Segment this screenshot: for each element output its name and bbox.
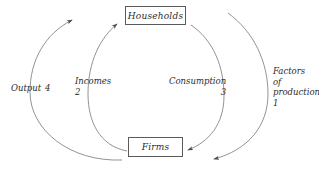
node-households-label: Households (128, 11, 183, 21)
flow-label-factors-line1: Factors (273, 66, 319, 77)
flow-number-incomes: 2 (75, 87, 111, 98)
flow-label-consumption: Consumption 3 (169, 76, 226, 97)
flow-number-factors: 1 (273, 98, 319, 109)
node-households: Households (125, 6, 186, 25)
node-firms-label: Firms (142, 142, 170, 152)
flow-number-consumption: 3 (169, 87, 226, 98)
flow-label-incomes: Incomes 2 (75, 76, 111, 97)
flow-label-factors-line3: production (273, 87, 319, 98)
node-firms: Firms (128, 137, 183, 157)
flow-number-output: 4 (45, 83, 50, 94)
flow-label-incomes-text: Incomes (75, 76, 111, 87)
circular-flow-diagram: Households Firms Output 4 Incomes 2 Cons… (0, 0, 319, 170)
flow-label-output: Output (11, 83, 41, 94)
flow-label-output-text: Output (11, 83, 41, 93)
flow-label-factors-line2: of (273, 77, 319, 88)
flow-label-consumption-text: Consumption (169, 76, 226, 87)
flow-label-factors-of-production: Factors of production 1 (273, 66, 319, 108)
